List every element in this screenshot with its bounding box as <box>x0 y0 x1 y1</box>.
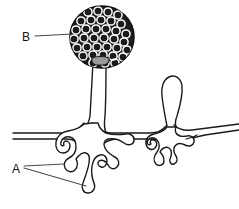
label-a-text: A <box>12 162 20 176</box>
columella <box>92 57 110 66</box>
sporangium <box>70 6 134 68</box>
label-b-group[interactable]: B <box>22 30 73 44</box>
stolon-upper-line <box>13 123 239 133</box>
label-b-text: B <box>22 30 30 44</box>
stalk-left-wall <box>82 62 93 133</box>
stalk-right-wall <box>104 62 106 133</box>
diagram-canvas: B A <box>0 0 239 209</box>
young-stalk-outline <box>162 76 182 127</box>
label-b-leader <box>35 34 73 36</box>
young-sporangiophore <box>162 76 182 127</box>
rhizopus-diagram: B A <box>0 0 239 209</box>
label-a-leader-upper <box>24 164 64 166</box>
label-a-leader-lower <box>24 168 86 186</box>
